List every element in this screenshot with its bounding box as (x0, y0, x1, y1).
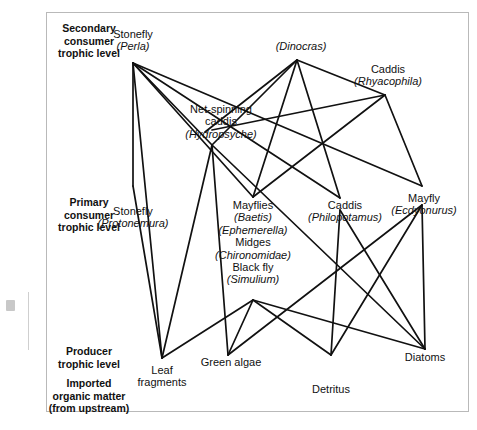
node-label-perla: Stonefly (Perla) (113, 28, 153, 53)
link-dinocras-philopotamus (297, 60, 340, 198)
diatoms-name: Diatoms (405, 351, 445, 363)
blackfly-common-name: Black fly (215, 261, 291, 273)
node-label-green-algae: Green algae (201, 356, 262, 368)
leaf-line1: Leaf (138, 364, 187, 376)
node-label-diatoms: Diatoms (405, 351, 445, 363)
level-secondary-line1: Secondary (58, 22, 120, 35)
node-label-philopotamus: Caddis (Philopotamus) (308, 199, 382, 224)
ecdyonurus-scientific-name: (Ecdyonurus) (391, 204, 456, 216)
midges-common-name: Midges (215, 236, 291, 248)
rhyacophila-scientific-name: (Rhyacophila) (354, 75, 422, 87)
baetis-scientific-name: (Baetis) (215, 211, 291, 223)
philopotamus-scientific-name: (Philopotamus) (308, 211, 382, 223)
food-web-figure: Secondary consumer trophic level Primary… (0, 0, 477, 430)
link-hydropsyche-leaf (162, 145, 212, 358)
link-dinocras-mayflies (253, 60, 297, 197)
simulium-scientific-name: (Simulium) (215, 273, 291, 285)
node-label-protonemura: Stonefly (Protonemura) (98, 205, 169, 230)
ecdyonurus-common-name: Mayfly (391, 192, 456, 204)
level-imported-line1: Imported (49, 377, 130, 390)
level-label-imported: Imported organic matter (from upstream) (49, 377, 130, 415)
rhyacophila-common-name: Caddis (354, 63, 422, 75)
perla-scientific-name: (Perla) (113, 40, 153, 52)
node-label-hydropsyche: Net-spinning caddis (Hydropsyche) (185, 103, 257, 140)
level-label-producer: Producer trophic level (58, 345, 120, 370)
node-label-leaf-fragments: Leaf fragments (138, 364, 187, 389)
level-producer-line1: Producer (58, 345, 120, 358)
level-producer-line2: trophic level (58, 358, 120, 371)
level-secondary-line2: consumer (58, 35, 120, 48)
algae-name: Green algae (201, 356, 262, 368)
perla-common-name: Stonefly (113, 28, 153, 40)
level-imported-line3: (from upstream) (49, 402, 130, 415)
leaf-line2: fragments (138, 376, 187, 388)
node-label-mayflies-cluster: Mayflies (Baetis) (Ephemerella) Midges (… (215, 199, 291, 286)
node-label-dinocras: (Dinocras) (276, 40, 327, 52)
node-label-ecdyonurus: Mayfly (Ecdyonurus) (391, 192, 456, 217)
node-label-detritus: Detritus (312, 383, 350, 395)
protonemura-common-name: Stonefly (98, 205, 169, 217)
hydropsyche-common-line2: caddis (185, 115, 257, 127)
level-imported-line2: organic matter (49, 390, 130, 403)
philopotamus-common-name: Caddis (308, 199, 382, 211)
dinocras-scientific-name: (Dinocras) (276, 40, 327, 52)
mayflies-common-name: Mayflies (215, 199, 291, 211)
ephemerella-scientific-name: (Ephemerella) (215, 224, 291, 236)
hydropsyche-common-line1: Net-spinning (185, 103, 257, 115)
protonemura-scientific-name: (Protonemura) (98, 217, 169, 229)
hydropsyche-scientific-name: (Hydropsyche) (185, 128, 257, 140)
detritus-name: Detritus (312, 383, 350, 395)
link-philopotamus-detritus (331, 210, 340, 355)
chironomidae-scientific-name: (Chironomidae) (215, 249, 291, 261)
level-secondary-line3: trophic level (58, 47, 120, 60)
link-rhyacophila-mayflies (253, 95, 385, 197)
link-ecdyonurus-diatoms (422, 205, 425, 349)
node-label-rhyacophila: Caddis (Rhyacophila) (354, 63, 422, 88)
level-label-secondary: Secondary consumer trophic level (58, 22, 120, 60)
